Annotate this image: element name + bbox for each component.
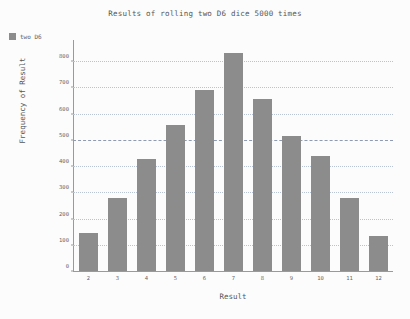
y-tick-mark-400: [71, 166, 73, 167]
y-tick-mark-800: [71, 61, 73, 62]
x-tick-label-4: 4: [132, 275, 161, 281]
bar-slot-7: [219, 40, 248, 271]
y-tick-mark-600: [71, 113, 73, 114]
y-tick-label-800: 800: [59, 53, 69, 59]
bar-11[interactable]: [340, 198, 359, 272]
y-tick-label-300: 300: [59, 184, 69, 190]
plot-area: 0100200300400500600700800: [73, 40, 393, 272]
bar-slot-8: [248, 40, 277, 271]
bar-slot-3: [103, 40, 132, 271]
y-tick-label-400: 400: [59, 158, 69, 164]
bar-slot-4: [132, 40, 161, 271]
y-tick-mark-0: [71, 271, 73, 272]
bar-7[interactable]: [224, 53, 243, 271]
chart-figure: Results of rolling two D6 dice 5000 time…: [0, 0, 410, 319]
y-tick-label-700: 700: [59, 79, 69, 85]
bar-slot-12: [364, 40, 393, 271]
bar-slot-6: [190, 40, 219, 271]
x-axis-label: Result: [73, 292, 393, 301]
bar-slot-5: [161, 40, 190, 271]
x-tick-label-6: 6: [190, 275, 219, 281]
legend-swatch-two-d6: [9, 33, 16, 40]
y-tick-label-600: 600: [59, 106, 69, 112]
bar-slot-10: [306, 40, 335, 271]
bar-2[interactable]: [79, 233, 98, 271]
x-axis-line: [73, 271, 393, 272]
bar-slot-11: [335, 40, 364, 271]
bar-4[interactable]: [137, 159, 156, 271]
x-tick-label-9: 9: [277, 275, 306, 281]
x-tick-label-7: 7: [219, 275, 248, 281]
x-tick-labels: 23456789101112: [74, 275, 393, 281]
y-tick-mark-500: [71, 139, 73, 140]
bar-10[interactable]: [311, 156, 330, 272]
bar-slot-2: [74, 40, 103, 271]
bar-6[interactable]: [195, 90, 214, 271]
y-tick-mark-200: [71, 218, 73, 219]
x-tick-label-2: 2: [74, 275, 103, 281]
y-tick-label-500: 500: [59, 132, 69, 138]
y-tick-mark-300: [71, 192, 73, 193]
x-tick-label-10: 10: [306, 275, 335, 281]
x-tick-label-12: 12: [364, 275, 393, 281]
bar-series-two-d6: [74, 40, 393, 271]
y-tick-label-200: 200: [59, 211, 69, 217]
y-tick-mark-100: [71, 244, 73, 245]
y-axis-label: Frequency of Result: [18, 21, 27, 181]
bar-5[interactable]: [166, 125, 185, 271]
bar-slot-9: [277, 40, 306, 271]
x-tick-label-5: 5: [161, 275, 190, 281]
y-tick-label-0: 0: [66, 263, 69, 269]
x-tick-label-3: 3: [103, 275, 132, 281]
chart-title: Results of rolling two D6 dice 5000 time…: [0, 9, 410, 18]
bar-12[interactable]: [369, 236, 388, 271]
y-tick-mark-700: [71, 87, 73, 88]
x-tick-label-11: 11: [335, 275, 364, 281]
bar-8[interactable]: [253, 99, 272, 271]
y-tick-label-100: 100: [59, 237, 69, 243]
bar-9[interactable]: [282, 136, 301, 271]
x-tick-label-8: 8: [248, 275, 277, 281]
bar-3[interactable]: [108, 198, 127, 272]
